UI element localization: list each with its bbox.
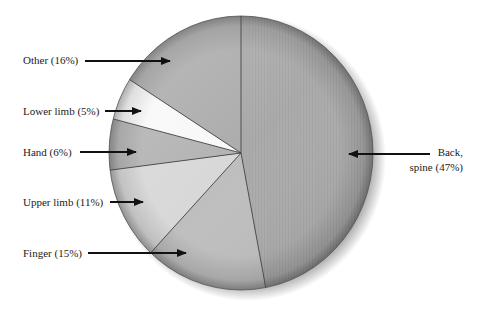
label-hand-text: Hand (6%)	[23, 146, 72, 159]
label-upper-limb-text: Upper limb (11%)	[23, 196, 104, 209]
pie-chart: Other (16%) Lower limb (5%) Hand (6%) Up…	[0, 0, 487, 310]
label-other-text: Other (16%)	[23, 54, 79, 67]
label-back-spine-line1: Back,	[438, 146, 464, 158]
label-finger-text: Finger (15%)	[23, 247, 82, 260]
label-lower-limb-text: Lower limb (5%)	[23, 105, 100, 118]
label-back-spine-line2: spine (47%)	[410, 161, 464, 174]
